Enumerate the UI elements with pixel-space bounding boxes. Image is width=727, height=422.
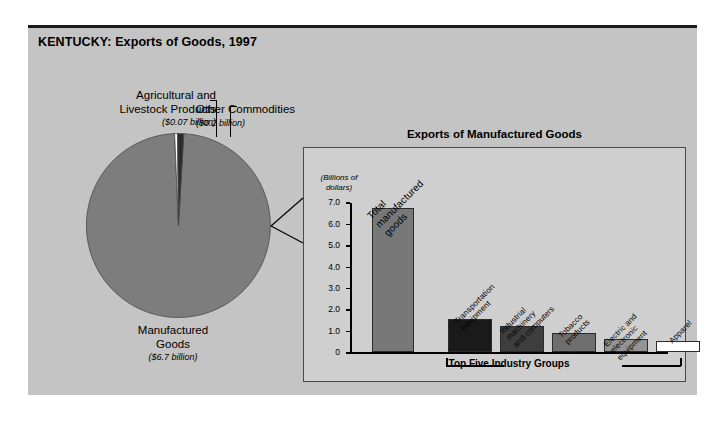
y-tick-3.0: 3.0	[346, 288, 350, 290]
pie-label-manufactured-name: ManufacturedGoods	[88, 324, 258, 351]
y-tick-1.0: 1.0	[346, 331, 350, 333]
pie-label-agricultural-name: Agricultural andLivestock Products	[46, 89, 216, 116]
bar-label-4: Electric and electronic equipment	[602, 312, 652, 362]
y-axis-line	[350, 203, 352, 353]
bar-chart-title: Exports of Manufactured Goods	[303, 128, 686, 140]
bar-5	[656, 341, 700, 352]
bracket-label: Top Five Industry Groups	[350, 358, 668, 369]
y-tick-0: 0	[346, 352, 350, 354]
pie-label-other-commodities: Other Commodities ($0.2 billion)	[196, 103, 356, 128]
y-tick-label-3.0: 3.0	[328, 283, 340, 293]
y-tick-label-7.0: 7.0	[328, 197, 340, 207]
y-tick-label-1.0: 1.0	[328, 326, 340, 336]
y-tick-5.0: 5.0	[346, 245, 350, 247]
y-axis-units-label: (Billions ofdollars)	[302, 173, 376, 192]
y-tick-label-4.0: 4.0	[328, 262, 340, 272]
y-tick-label-2.0: 2.0	[328, 304, 340, 314]
industry-group-bracket: Top Five Industry Groups	[350, 358, 668, 380]
y-tick-4.0: 4.0	[346, 267, 350, 269]
pie-label-other-name: Other Commodities	[196, 103, 356, 117]
pie-chart	[86, 133, 271, 318]
figure-panel: KENTUCKY: Exports of Goods, 1997 Agricul…	[28, 25, 697, 395]
y-tick-label-0: 0	[335, 347, 340, 357]
pie-chart-block: Agricultural andLivestock Products ($0.0…	[28, 28, 328, 398]
y-tick-label-6.0: 6.0	[328, 219, 340, 229]
pie-label-other-amount: ($0.2 billion)	[196, 118, 356, 129]
pie-label-agricultural-amount: ($0.07 billion)	[46, 117, 216, 128]
y-tick-2.0: 2.0	[346, 309, 350, 311]
pie-label-manufactured-amount: ($6.7 billion)	[88, 352, 258, 363]
pie-label-agricultural: Agricultural andLivestock Products ($0.0…	[46, 89, 216, 128]
y-tick-6.0: 6.0	[346, 224, 350, 226]
bar-plot-area: (Billions ofdollars) 7.06.05.04.03.02.01…	[350, 203, 668, 353]
pie-label-manufactured: ManufacturedGoods ($6.7 billion)	[88, 324, 258, 363]
y-tick-7.0: 7.0	[346, 202, 350, 204]
y-tick-label-5.0: 5.0	[328, 240, 340, 250]
bar-chart-panel: (Billions ofdollars) 7.06.05.04.03.02.01…	[303, 147, 686, 382]
